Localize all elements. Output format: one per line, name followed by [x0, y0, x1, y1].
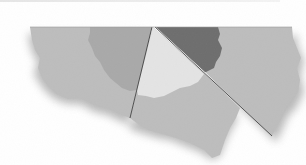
torn-map-illustration [0, 0, 306, 165]
